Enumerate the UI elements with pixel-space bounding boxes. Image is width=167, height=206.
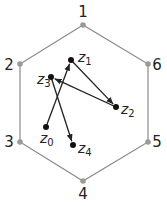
point-labels: z0z1z2z3z4 <box>36 49 135 158</box>
arrow-z0-to-z1 <box>46 64 70 127</box>
vertex-label: 3 <box>4 133 14 151</box>
vertex-label: 5 <box>152 133 162 151</box>
point-label: z1 <box>77 49 92 67</box>
arrow-z2-to-z3 <box>55 79 116 107</box>
point-label: z0 <box>39 130 54 148</box>
hexagon-vertices <box>17 22 151 184</box>
point-label: z3 <box>36 71 51 89</box>
vertex-label: 6 <box>152 56 162 74</box>
vertex-dot <box>145 139 151 145</box>
arrows <box>46 60 116 141</box>
vertex-dot <box>80 178 86 184</box>
vertex-label: 4 <box>78 185 88 203</box>
vertex-label: 2 <box>4 56 14 74</box>
vertex-label: 1 <box>78 3 88 21</box>
vertex-dot <box>17 139 23 145</box>
arrow-z1-to-z2 <box>71 60 113 104</box>
vertex-dot <box>145 61 151 67</box>
vertex-dot <box>80 22 86 28</box>
point-z2 <box>113 104 119 110</box>
point-label: z2 <box>120 101 135 119</box>
vertex-dot <box>17 61 23 67</box>
vertex-labels: 123456 <box>4 3 162 203</box>
hexagon-diagram: 123456 z0z1z2z3z4 <box>0 0 167 206</box>
point-z4 <box>70 142 76 148</box>
point-label: z4 <box>77 140 92 158</box>
point-z1 <box>68 57 74 63</box>
